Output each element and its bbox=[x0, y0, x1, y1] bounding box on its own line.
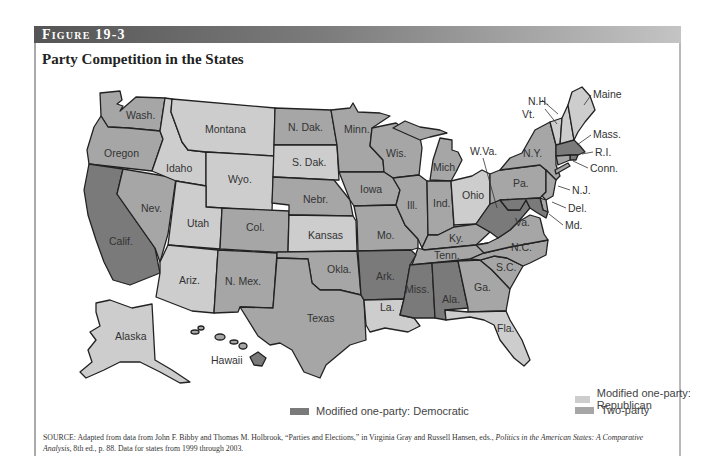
hawaii-island-4 bbox=[230, 340, 238, 344]
state-long-island bbox=[555, 163, 570, 174]
label-mo: Mo. bbox=[377, 229, 395, 241]
hawaii-island-5 bbox=[239, 343, 247, 349]
label-wash: Wash. bbox=[126, 109, 155, 121]
label-okla: Okla. bbox=[327, 263, 352, 275]
label-oregon: Oregon bbox=[104, 147, 139, 159]
label-iowa: Iowa bbox=[360, 183, 382, 195]
state-maine bbox=[568, 87, 595, 140]
label-vt: Vt. bbox=[522, 108, 535, 120]
label-miss: Miss. bbox=[405, 283, 430, 295]
label-ndak: N. Dak. bbox=[288, 121, 323, 133]
label-sc: S.C. bbox=[496, 261, 516, 273]
hawaii-island-2 bbox=[198, 326, 204, 330]
label-mass: Mass. bbox=[593, 128, 621, 140]
label-ala: Ala. bbox=[442, 293, 460, 305]
legend-item-democratic: Modified one-party: Democratic bbox=[290, 405, 469, 417]
legend-item-two-party: Two-party bbox=[575, 404, 649, 416]
label-wyo: Wyo. bbox=[228, 173, 252, 185]
source-text: SOURCE: Adapted from data from John F. B… bbox=[43, 433, 496, 442]
label-ri: R.I. bbox=[595, 146, 611, 158]
label-minn: Minn. bbox=[344, 123, 370, 135]
legend-swatch-two-party bbox=[575, 407, 594, 414]
label-ind: Ind. bbox=[433, 197, 451, 209]
label-alaska: Alaska bbox=[115, 330, 147, 342]
label-nh: N.H. bbox=[528, 95, 549, 107]
label-ga: Ga. bbox=[474, 281, 491, 293]
label-ny: N.Y. bbox=[523, 147, 542, 159]
label-md: Md. bbox=[565, 219, 583, 231]
legend-label-two-party: Two-party bbox=[601, 404, 649, 416]
label-ky: Ky. bbox=[449, 232, 463, 244]
label-tenn: Tenn. bbox=[434, 249, 460, 261]
label-ohio: Ohio bbox=[462, 189, 484, 201]
hawaii-big-island bbox=[250, 352, 266, 366]
hawaii-island-3 bbox=[215, 334, 225, 340]
legend-swatch-republican bbox=[575, 396, 590, 403]
label-nebr: Nebr. bbox=[303, 193, 328, 205]
label-kansas: Kansas bbox=[308, 229, 343, 241]
label-la: La. bbox=[380, 301, 395, 313]
label-maine: Maine bbox=[593, 88, 622, 100]
label-ill: Ill. bbox=[407, 199, 418, 211]
label-del: Del. bbox=[568, 202, 587, 214]
label-wva: W.Va. bbox=[470, 145, 497, 157]
state-ri bbox=[570, 155, 578, 160]
legend-swatch-democratic bbox=[290, 408, 309, 415]
label-hawaii: Hawaii bbox=[211, 354, 243, 366]
label-conn: Conn. bbox=[590, 162, 618, 174]
label-col: Col. bbox=[246, 221, 265, 233]
label-mich: Mich. bbox=[433, 161, 458, 173]
label-wis: Wis. bbox=[386, 147, 406, 159]
label-nev: Nev. bbox=[141, 202, 162, 214]
label-utah: Utah bbox=[187, 217, 209, 229]
label-ariz: Ariz. bbox=[179, 274, 200, 286]
label-nc: N.C. bbox=[511, 241, 532, 253]
label-ark: Ark. bbox=[376, 270, 395, 282]
legend-label-democratic: Modified one-party: Democratic bbox=[316, 405, 469, 417]
label-nj: N.J. bbox=[572, 184, 591, 196]
label-montana: Montana bbox=[205, 123, 246, 135]
label-va: Va. bbox=[515, 216, 530, 228]
label-fla: Fla. bbox=[497, 322, 515, 334]
label-pa: Pa. bbox=[513, 177, 529, 189]
source-suffix: 8th ed., p. 88. Data for states from 199… bbox=[71, 444, 243, 453]
label-calif: Calif. bbox=[109, 235, 133, 247]
label-sdak: S. Dak. bbox=[292, 156, 326, 168]
state-mich bbox=[430, 138, 462, 181]
state-fla bbox=[445, 310, 530, 366]
label-idaho: Idaho bbox=[166, 162, 192, 174]
hawaii-island-1 bbox=[191, 330, 199, 334]
label-nmex: N. Mex. bbox=[225, 275, 261, 287]
label-texas: Texas bbox=[307, 312, 334, 324]
source-note: SOURCE: Adapted from data from John F. B… bbox=[43, 432, 673, 454]
